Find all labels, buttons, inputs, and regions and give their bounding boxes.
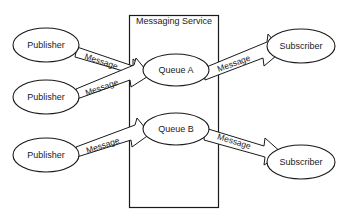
edge-pub1-queuea-label: Message xyxy=(83,51,119,71)
node-publisher-3[interactable]: Publisher xyxy=(13,138,79,172)
node-queue-a[interactable]: Queue A xyxy=(143,54,209,86)
messaging-service-label: Messaging Service xyxy=(136,16,212,26)
node-publisher-2[interactable]: Publisher xyxy=(13,80,79,114)
queue-b-label: Queue B xyxy=(158,124,194,134)
publisher-3-label: Publisher xyxy=(27,150,65,160)
messaging-service-container[interactable] xyxy=(130,16,219,208)
node-subscriber-2[interactable]: Subscriber xyxy=(267,145,335,179)
publisher-1-label: Publisher xyxy=(27,40,65,50)
edge-pub3-queueb[interactable]: Message xyxy=(76,118,150,157)
subscriber-1-label: Subscriber xyxy=(279,41,322,51)
publisher-2-label: Publisher xyxy=(27,92,65,102)
node-publisher-1[interactable]: Publisher xyxy=(13,28,79,62)
queue-a-label: Queue A xyxy=(158,65,193,75)
node-subscriber-1[interactable]: Subscriber xyxy=(267,29,335,63)
diagram-svg: Messaging Service Message Message Messag… xyxy=(0,0,345,222)
node-queue-b[interactable]: Queue B xyxy=(143,113,209,145)
subscriber-2-label: Subscriber xyxy=(279,157,322,167)
diagram-canvas: Messaging Service Message Message Messag… xyxy=(0,0,345,222)
